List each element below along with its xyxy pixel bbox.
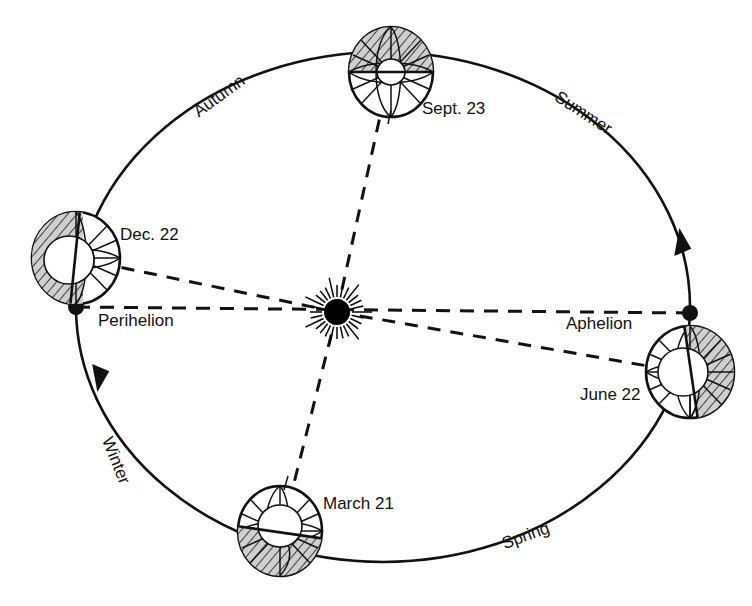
sun-ray bbox=[305, 297, 323, 306]
season-autumn-label: Autumn bbox=[190, 71, 249, 121]
sun-ray bbox=[346, 285, 358, 301]
aphelion-label: Aphelion bbox=[566, 314, 632, 333]
season-winter-label: Winter bbox=[98, 434, 134, 487]
earth-march-21: March 21 bbox=[236, 476, 394, 580]
earth-sept-23-label: Sept. 23 bbox=[422, 99, 485, 118]
season-spring-label: Spring bbox=[499, 518, 552, 553]
orbit-direction-arrow-right bbox=[670, 227, 692, 256]
earth-june-22: June 22 bbox=[580, 324, 740, 420]
sun-earth-ray-lines bbox=[114, 112, 648, 495]
axis-line-sept-23 bbox=[337, 112, 381, 312]
sun-ray bbox=[329, 278, 333, 298]
earth-dec-22-label: Dec. 22 bbox=[120, 225, 179, 244]
sun-ray bbox=[305, 319, 323, 328]
earth-june-22-label: June 22 bbox=[580, 385, 641, 404]
sun-icon bbox=[305, 278, 372, 346]
diagram-canvas: Sept. 23 bbox=[0, 0, 752, 606]
sun-ray bbox=[351, 319, 362, 324]
season-summer-label: Summer bbox=[551, 87, 616, 138]
earth-march-21-label: March 21 bbox=[323, 494, 394, 513]
aphelion-dot bbox=[682, 305, 698, 321]
sun-ray bbox=[344, 288, 349, 299]
axis-line-dec-22 bbox=[114, 266, 337, 312]
sun-ray bbox=[311, 315, 323, 318]
sun-ray bbox=[351, 300, 362, 305]
sun-ray bbox=[340, 327, 343, 339]
orbit-seasons-diagram: Sept. 23 bbox=[0, 0, 752, 606]
earth-dec-22: Dec. 22 bbox=[28, 210, 179, 308]
sun-ray bbox=[352, 306, 364, 309]
sun-ray bbox=[344, 326, 349, 337]
sun-ray bbox=[325, 326, 330, 337]
sun-ray bbox=[346, 324, 358, 340]
sun-ray bbox=[325, 288, 330, 299]
perihelion-label: Perihelion bbox=[98, 311, 174, 330]
earth-sept-23: Sept. 23 bbox=[347, 25, 485, 124]
